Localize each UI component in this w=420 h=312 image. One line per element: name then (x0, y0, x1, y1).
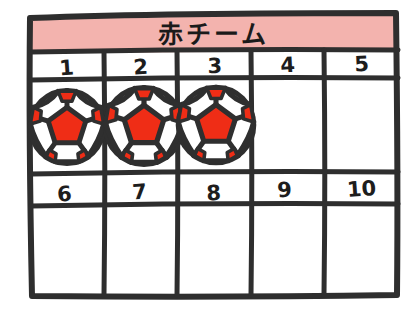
cell-label-1: 1 (58, 56, 74, 81)
cell-label-8: 8 (206, 181, 222, 206)
grid-vline-2 (177, 51, 178, 295)
cell-1-mark-soccer-ball[interactable] (30, 90, 103, 163)
tally-chart-board: 赤チーム 1 2 3 4 5 6 7 8 9 10 (0, 0, 420, 312)
cell-3-mark-soccer-ball[interactable] (178, 87, 253, 162)
cell-10-empty[interactable] (327, 208, 395, 294)
chart-canvas: 赤チーム 1 2 3 4 5 6 7 8 9 10 (0, 0, 420, 312)
cell-7-empty[interactable] (107, 208, 175, 294)
cell-label-7: 7 (131, 180, 147, 205)
cell-5-empty[interactable] (327, 80, 396, 172)
grid-vline-3 (251, 51, 252, 295)
cell-8-empty[interactable] (180, 208, 248, 294)
grid-hline-banner-bottom (31, 50, 398, 52)
cell-label-4: 4 (280, 53, 296, 78)
cell-label-6: 6 (56, 181, 73, 206)
cell-label-9: 9 (276, 178, 292, 203)
grid-vline-4 (324, 50, 325, 295)
grid-vline-1 (104, 52, 105, 295)
cell-label-3: 3 (207, 54, 222, 78)
cell-label-5: 5 (354, 52, 370, 77)
cell-9-empty[interactable] (254, 208, 322, 294)
cell-2-mark-soccer-ball[interactable] (106, 88, 183, 165)
cell-6-empty[interactable] (34, 208, 102, 294)
cell-4-empty[interactable] (253, 80, 322, 172)
cell-label-10: 10 (346, 176, 377, 202)
chart-title: 赤チーム (158, 20, 269, 49)
cell-label-2: 2 (133, 55, 149, 80)
